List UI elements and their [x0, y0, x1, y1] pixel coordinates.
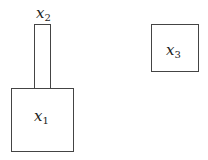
shape-x3: x3: [152, 25, 199, 72]
diagram-canvas: x2 x1 x3: [0, 0, 208, 160]
label-x2: x2: [36, 4, 51, 23]
shape-x1: x1: [12, 89, 74, 152]
rect-x3: [152, 25, 199, 72]
rect-x2: [35, 25, 51, 89]
label-x3: x3: [166, 41, 181, 60]
label-x1: x1: [34, 107, 49, 126]
shape-x2: x2: [35, 4, 51, 89]
